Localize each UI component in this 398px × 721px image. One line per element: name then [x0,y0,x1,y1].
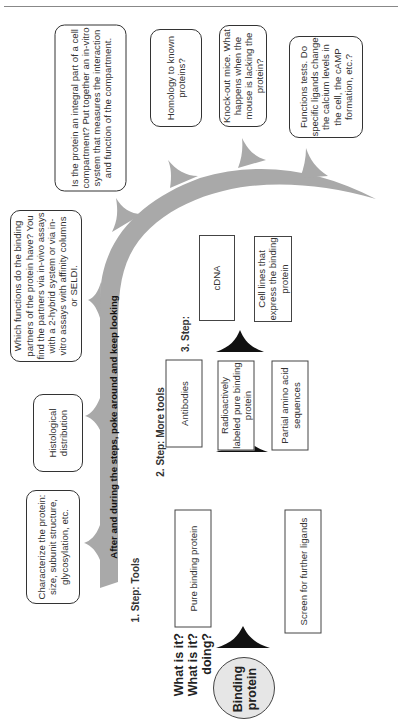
question-knockout: Knock-out mice. What happens when the mo… [219,25,267,127]
question-homology: Homology to known proteins? [150,29,202,127]
step-3-box-cell-lines: Cell lines that express the binding prot… [254,236,292,322]
question-characterize: Characterize the protein: size, subunit … [26,490,80,604]
step-2-box-antibodies: Antibodies [166,360,203,448]
side-questions: What is it? What is it? doing? [169,633,217,721]
step-1-box-pure-protein: Pure binding protein [175,510,212,628]
question-histological: Histological distribution [33,394,83,472]
step-1-box-screen-ligands: Screen for further ligands [285,510,322,634]
step-3-label: 3. Step: [178,311,192,357]
step-2-box-amino-sequences: Partial amino acid sequences [272,361,309,451]
band-label: After and during the steps, poke around … [106,292,120,562]
step-3-box-cdna: cDNA [199,235,235,321]
binding-protein-label: Binding protein [228,658,262,720]
step-1-label: 1. Step: Tools [128,555,142,625]
question-binding-partners: Which functions do the binding partners … [10,210,82,362]
question-function-tests: Functions tests. Do specific ligands cha… [289,36,363,138]
question-compartment: Is the protein an integral part of a cel… [55,25,127,192]
step-arrow-2 [216,330,264,352]
step-2-box-radiolabeled: Radioactively labeled pure binding prote… [218,361,255,451]
step-arrow-0 [216,626,270,648]
